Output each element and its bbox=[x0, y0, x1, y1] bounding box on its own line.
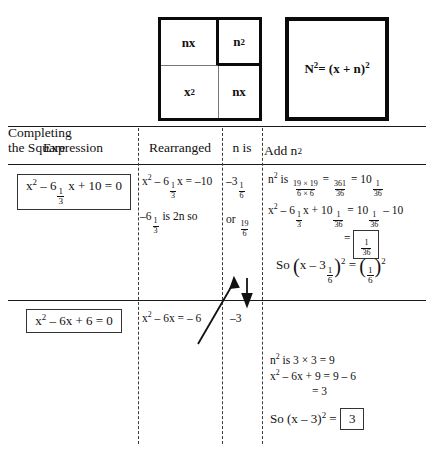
row-1-addn2-line1-frac2: 36136 bbox=[333, 180, 347, 197]
row-1-n-is-line1-frac-den: 6 bbox=[239, 191, 245, 200]
diagonal-arrow-head bbox=[231, 278, 239, 288]
row-1-rearranged-line1: x2 – 613x = –10 bbox=[142, 175, 212, 200]
row-1-n-is-line2-pre: or bbox=[226, 213, 238, 225]
row-1-conclusion-rhs-frac-num: 1 bbox=[367, 266, 374, 275]
row-2-expression-cell: x2 – 6x + 6 = 0 bbox=[14, 309, 134, 333]
row-1-expression-frac-den: 3 bbox=[57, 196, 64, 206]
row-1-conclusion-open-paren: ( bbox=[293, 255, 300, 277]
row-1-addn2-line2-frac1-num: 1 bbox=[296, 211, 302, 219]
area-cell-n-squared: n2 bbox=[219, 20, 259, 66]
row-1-n-is-line1: –316 bbox=[226, 175, 246, 200]
row-1-rearranged-line1-fraction: 13 bbox=[170, 182, 176, 199]
table-rule-row-divider bbox=[8, 300, 426, 301]
total-square-rhs: = (x + n) bbox=[318, 61, 365, 76]
row-1-addn2-line2-frac2-den: 36 bbox=[333, 220, 343, 229]
total-square-lhs: N bbox=[304, 61, 313, 76]
column-header-expression-label: Expression bbox=[43, 140, 103, 156]
column-divider-1 bbox=[138, 128, 139, 444]
row-2-rearranged-line1: x2 – 6x = – 6 bbox=[142, 312, 201, 324]
row-1-addn2-line1-frac3-den: 36 bbox=[373, 189, 383, 198]
area-cell-nx-bottom-label: nx bbox=[232, 84, 246, 100]
row-1-conclusion-rhs-open-paren: ( bbox=[359, 255, 366, 277]
row-1-expression-box: x2 – 613 x + 10 = 0 bbox=[17, 174, 131, 210]
row-2-add-n-squared-line3: = 3 bbox=[312, 385, 327, 397]
row-1-rearranged-line2-fraction: 13 bbox=[153, 217, 159, 234]
table-rule-header bbox=[8, 164, 426, 165]
row-1-conclusion-lhs-frac-den: 6 bbox=[327, 275, 334, 285]
area-model-diagrams: nx n2 x2 nx N2= (x + n)2 bbox=[0, 0, 434, 124]
completing-the-square-table: Expression Rearranged n is Add n2 Comple… bbox=[8, 126, 426, 444]
row-1-addn2-line1-frac1-den: 6 × 6 bbox=[296, 189, 315, 198]
row-1-rearranged-line2-frac-den: 3 bbox=[153, 226, 159, 235]
row-2-rearranged-post: – 6x = – 6 bbox=[152, 312, 202, 324]
row-1-addn2-line2-b: – 6 bbox=[278, 204, 295, 216]
area-model-square: nx n2 x2 nx bbox=[158, 17, 262, 121]
row-1-add-n-squared-line2: x2 – 613x + 10136 = 10136 – 10 bbox=[268, 204, 403, 229]
row-2-add-n-squared-line1: n2 is 3 × 3 = 9 bbox=[270, 354, 335, 366]
row-1-addn2-line2-frac3: 136 bbox=[369, 211, 379, 228]
row-1-expression-post: x + 10 = 0 bbox=[65, 178, 122, 193]
row-1-addn2-line1-frac1-num: 19 × 19 bbox=[292, 180, 319, 188]
row-1-rearranged-line2-pre: –6 bbox=[140, 210, 152, 222]
row-1-expression-cell: x2 – 613 x + 10 = 0 bbox=[14, 174, 134, 210]
row-1-conclusion-lhs-fraction: 16 bbox=[327, 266, 334, 286]
row-2-addn2-line1-b: is 3 × 3 = 9 bbox=[280, 354, 335, 366]
row-1-conclusion-rhs-frac-den: 6 bbox=[367, 275, 374, 285]
area-cell-n-squared-label: n bbox=[233, 34, 240, 50]
row-1-n-is-line2-fraction: 196 bbox=[239, 220, 249, 237]
row-1-conclusion-rhs-exp: 2 bbox=[381, 256, 385, 266]
row-1-conclusion-lhs: x – 3 bbox=[300, 257, 326, 272]
row-1-rearranged-line1-post: x = –10 bbox=[177, 175, 212, 187]
area-cell-nx-top-label: nx bbox=[182, 35, 196, 51]
area-cell-nx-top: nx bbox=[161, 20, 219, 66]
row-2-expression-box: x2 – 6x + 6 = 0 bbox=[26, 309, 122, 333]
row-1-n-is-line2-frac-den: 6 bbox=[241, 229, 247, 238]
row-2-conclusion: So (x – 3)2 = 3 bbox=[270, 408, 364, 430]
row-2-addn2-line2-b: – 6x + 9 = 9 – 6 bbox=[280, 370, 356, 382]
row-1-conclusion-lhs-frac-num: 1 bbox=[327, 266, 334, 275]
row-1-rearranged-line2-frac-num: 1 bbox=[153, 217, 159, 225]
row-1-rearranged-line1-mid: – 6 bbox=[152, 175, 169, 187]
row-1-n-is-line1-pre: –3 bbox=[226, 175, 238, 187]
row-1-addn2-line1-frac2-den: 36 bbox=[335, 189, 345, 198]
row-1-conclusion-rhs-fraction: 16 bbox=[367, 266, 374, 286]
column-header-expression: Expression bbox=[8, 134, 138, 162]
row-1-expression-fraction: 13 bbox=[57, 187, 64, 207]
row-1-addn2-line1-c: = bbox=[320, 173, 332, 185]
row-1-n-is-line2: or 196 bbox=[226, 213, 251, 238]
row-1-addn2-line1-frac3: 136 bbox=[373, 180, 383, 197]
column-header-add-n-squared-label: Add n bbox=[264, 143, 297, 159]
row-1-addn2-line1-frac3-num: 1 bbox=[375, 180, 381, 188]
row-1-addn2-line2-frac3-num: 1 bbox=[371, 211, 377, 219]
row-2-n-is-value: –3 bbox=[230, 312, 242, 324]
row-2-add-n-squared-line2: x2 – 6x + 9 = 9 – 6 bbox=[270, 370, 356, 382]
table-rule-top bbox=[8, 126, 426, 127]
row-2-n-is: –3 bbox=[230, 312, 242, 324]
row-1-addn2-line2-d: = 10 bbox=[344, 204, 368, 216]
row-1-addn2-line2-frac1-den: 3 bbox=[296, 220, 302, 229]
row-1-n-is-line1-frac-num: 1 bbox=[239, 182, 245, 190]
row-1-addn2-line1-frac1: 19 × 196 × 6 bbox=[292, 180, 319, 197]
row-1-addn2-line2-frac2-num: 1 bbox=[335, 211, 341, 219]
column-header-n-is-label: n is bbox=[232, 140, 251, 156]
row-1-n-is-line1-fraction: 16 bbox=[239, 182, 245, 199]
row-1-addn2-line2-frac2: 136 bbox=[333, 211, 343, 228]
row-1-n-is-line2-frac-num: 19 bbox=[239, 220, 249, 228]
column-header-rearranged: Rearranged bbox=[138, 134, 222, 162]
row-1-conclusion-so: So bbox=[276, 257, 293, 272]
row-1-addn2-line2-e: – 10 bbox=[380, 204, 403, 216]
row-1-addn2-line3-eq: = bbox=[344, 232, 353, 244]
row-1-rearranged-line1-frac-num: 1 bbox=[170, 182, 176, 190]
row-1-addn2-line3-frac-num: 1 bbox=[363, 239, 369, 247]
row-1-add-n-squared-line1: n2 is 19 × 196 × 6 = 36136 = 10136 bbox=[268, 173, 384, 198]
area-cell-nx-bottom: nx bbox=[219, 66, 259, 118]
row-1-conclusion-close-paren: ) bbox=[334, 255, 341, 277]
area-cell-x-squared-label: x bbox=[184, 84, 191, 100]
total-square-rhs-exp: 2 bbox=[365, 60, 369, 70]
row-2-conclusion-result-box: 3 bbox=[340, 408, 365, 430]
column-divider-2 bbox=[222, 128, 223, 444]
row-1-addn2-line2-c: x + 10 bbox=[303, 204, 333, 216]
row-1-expression-frac-num: 1 bbox=[57, 187, 64, 196]
row-1-addn2-line2-frac1: 13 bbox=[296, 211, 302, 228]
row-1-addn2-line1-b: is bbox=[278, 173, 291, 185]
